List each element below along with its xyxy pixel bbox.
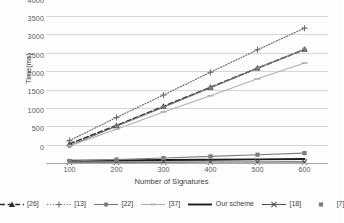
data-point-marker — [114, 114, 120, 120]
legend-label: [13] — [74, 200, 86, 208]
data-point-marker — [302, 47, 306, 51]
y-tick-label: 3000 — [2, 33, 44, 40]
x-tick-label: 100 — [55, 166, 85, 174]
series-line — [70, 49, 305, 145]
legend-label: [18] — [289, 200, 301, 208]
y-tick-label: 3500 — [2, 15, 44, 22]
data-point-marker — [319, 202, 323, 206]
y-axis-ticks: 05001000150020002500300035004000 — [0, 0, 44, 147]
legend-label: [22] — [121, 200, 133, 208]
y-tick-label: 2000 — [2, 70, 44, 77]
legend-item-22[interactable]: [22] — [93, 200, 133, 209]
y-tick-label: 500 — [2, 125, 44, 132]
data-point-marker — [161, 156, 165, 160]
legend-swatch-icon — [46, 200, 72, 209]
x-tick-label: 300 — [149, 166, 179, 174]
chart-legend: [26][13][22][37]Our scheme[18][7] — [0, 193, 343, 215]
y-tick-label: 0 — [2, 144, 44, 151]
data-point-marker — [302, 25, 308, 31]
plot-area — [46, 16, 328, 163]
data-point-marker — [255, 153, 259, 157]
data-point-marker — [208, 154, 212, 158]
legend-label: [26] — [27, 200, 39, 208]
data-point-marker — [208, 85, 212, 89]
y-tick-label: 1500 — [2, 88, 44, 95]
legend-swatch-icon — [0, 200, 25, 209]
data-point-marker — [161, 92, 167, 98]
legend-item-18[interactable]: [18] — [261, 200, 301, 209]
series-line — [70, 28, 305, 140]
x-tick-label: 400 — [196, 166, 226, 174]
legend-item-26[interactable]: [26] — [0, 200, 39, 209]
legend-swatch-icon — [261, 200, 287, 209]
data-point-marker — [255, 47, 261, 53]
legend-swatch-icon — [308, 200, 334, 209]
data-point-marker — [104, 202, 108, 206]
legend-item-7[interactable]: [7] — [308, 200, 344, 209]
y-tick-label: 1000 — [2, 107, 44, 114]
x-tick-label: 600 — [290, 166, 320, 174]
legend-swatch-icon — [93, 200, 119, 209]
data-point-marker — [255, 66, 259, 70]
data-point-marker — [161, 105, 165, 109]
data-point-marker — [208, 69, 214, 75]
x-tick-label: 200 — [102, 166, 132, 174]
y-tick-label: 4000 — [2, 0, 44, 4]
data-point-marker — [56, 201, 62, 207]
legend-swatch-icon — [187, 200, 213, 209]
x-axis-title: Number of Signatures — [0, 177, 343, 186]
data-point-marker — [114, 124, 118, 128]
x-tick-label: 500 — [243, 166, 273, 174]
legend-swatch-icon — [140, 200, 166, 209]
legend-item-our-scheme[interactable]: Our scheme — [187, 200, 254, 209]
legend-label: Our scheme — [216, 200, 254, 208]
data-point-marker — [114, 157, 118, 161]
data-point-marker — [302, 151, 306, 155]
series-line — [70, 63, 305, 146]
y-tick-label: 2500 — [2, 52, 44, 59]
series-layer — [46, 16, 328, 163]
x-axis-line — [46, 163, 328, 164]
legend-label: [37] — [169, 200, 181, 208]
legend-item-37[interactable]: [37] — [140, 200, 180, 209]
legend-label: [7] — [337, 200, 344, 208]
legend-item-13[interactable]: [13] — [46, 200, 86, 209]
